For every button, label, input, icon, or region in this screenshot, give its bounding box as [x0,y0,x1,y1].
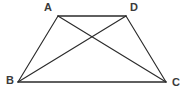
edge-DC [126,16,166,82]
vertex-label-C: C [172,77,180,88]
vertex-label-D: D [130,2,138,13]
vertex-label-B: B [6,75,14,86]
vertex-label-A: A [44,2,52,13]
figure-canvas [0,0,187,97]
diagonal-BD [18,16,126,82]
edge-AB [18,16,58,82]
geometry-figure: A D B C [0,0,187,97]
diagonal-AC [58,16,166,82]
